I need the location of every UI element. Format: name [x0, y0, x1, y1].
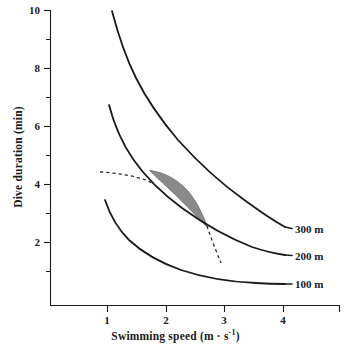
plot-area: [0, 0, 351, 348]
x-axis-title-exponent: -1: [229, 328, 236, 337]
curve-300m: [112, 11, 285, 227]
curve-200m: [109, 105, 285, 255]
x-tick-label-2: 2: [163, 314, 169, 326]
y-major-ticks: [44, 11, 51, 243]
leader-300m: [285, 227, 292, 229]
curve-label-300m: 300 m: [295, 223, 323, 235]
dive-duration-chart: 10 8 6 4 2 1 2 3 4 300 m 200 m 100 m Swi…: [0, 0, 351, 348]
x-major-ticks: [108, 306, 340, 313]
x-axis-title: Swimming speed (m · s-1): [0, 328, 351, 342]
y-axis-title: Dive duration (min): [12, 67, 24, 247]
label-leaders: [285, 227, 292, 284]
x-tick-label-3: 3: [221, 314, 227, 326]
leader-200m: [285, 255, 292, 256]
x-tick-label-1: 1: [104, 314, 110, 326]
curve-label-200m: 200 m: [295, 250, 323, 262]
x-tick-label-4: 4: [280, 314, 286, 326]
y-tick-label-10: 10: [18, 4, 40, 16]
x-axis-title-tail: ): [236, 330, 240, 342]
curve-label-100m: 100 m: [295, 278, 323, 290]
x-axis-title-main: Swimming speed (m · s: [111, 330, 228, 342]
y-minor-ticks: [46, 40, 51, 272]
